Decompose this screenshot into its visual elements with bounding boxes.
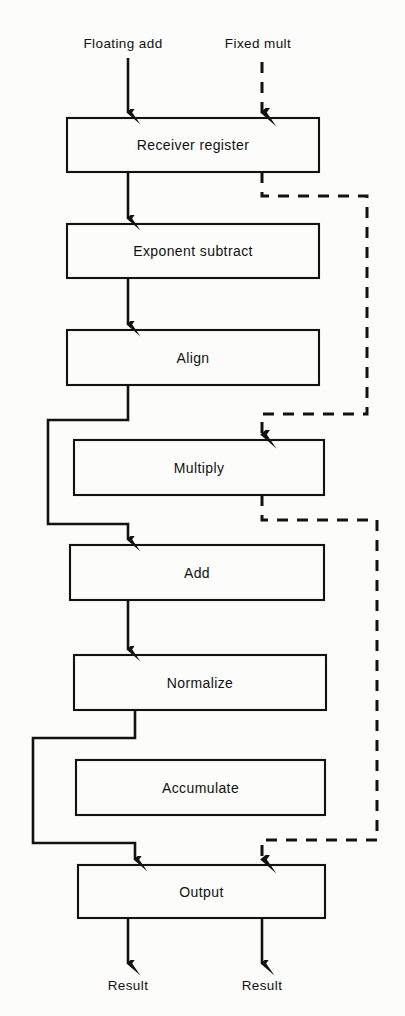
box-accumulate [76,760,325,815]
box-exponent [67,224,319,278]
solid-flow-paths [33,58,262,963]
arrow-multiply-bypass-to-output [262,495,377,859]
box-normalize [74,655,326,710]
flowchart-canvas: Receiver register Exponent subtract Alig… [0,0,405,1016]
box-output [78,865,325,918]
box-align [67,330,319,385]
stage-boxes [67,118,326,918]
arrow-receiver-bypass-to-multiply [262,172,367,434]
input-label-fixed-mult: Fixed mult [198,36,318,51]
output-label-result-left: Result [78,978,178,993]
box-add [70,545,324,600]
box-receiver [67,118,319,172]
input-label-floating-add: Floating add [53,36,193,51]
arrow-normalize-bypass-to-output [33,710,135,859]
flowchart-svg [0,0,405,1016]
dashed-flow-paths [262,62,377,859]
box-multiply [74,440,324,495]
output-label-result-right: Result [212,978,312,993]
arrow-align-bypass-to-add [48,385,128,539]
